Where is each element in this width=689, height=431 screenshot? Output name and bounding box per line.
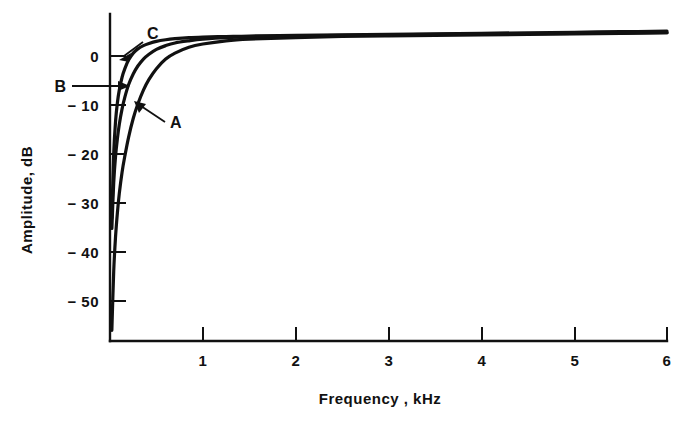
x-axis-title: Frequency , kHz	[319, 390, 442, 407]
x-tick-label-2: 2	[292, 352, 301, 369]
amplitude-frequency-chart: 0 − 10 − 20 − 30 − 40 − 50 1 2 3 4 5 6 F…	[0, 0, 689, 431]
series-curve-a	[112, 33, 667, 331]
series-curve-c	[112, 31, 667, 218]
series-curve-b	[112, 33, 667, 229]
x-tick-label-3: 3	[385, 352, 394, 369]
y-tick-label-minus30: − 30	[67, 195, 99, 212]
y-tick-label-minus50: − 50	[67, 293, 99, 310]
x-tick-label-4: 4	[478, 352, 487, 369]
annotation-b-label: B	[54, 78, 66, 95]
series-layer	[112, 31, 667, 330]
y-tick-label-minus40: − 40	[67, 244, 99, 261]
annotation-a-label: A	[170, 114, 182, 131]
annotation-c-label: C	[147, 25, 159, 42]
y-tick-label-minus20: − 20	[67, 146, 99, 163]
x-tick-label-5: 5	[571, 352, 580, 369]
y-tick-label-0: 0	[90, 48, 99, 65]
y-axis-title: Amplitude, dB	[18, 146, 35, 254]
y-tick-label-minus10: − 10	[67, 97, 99, 114]
x-tick-marks	[203, 327, 667, 341]
annotation-a: A	[134, 101, 182, 131]
x-tick-label-6: 6	[663, 352, 672, 369]
x-tick-label-1: 1	[199, 352, 208, 369]
